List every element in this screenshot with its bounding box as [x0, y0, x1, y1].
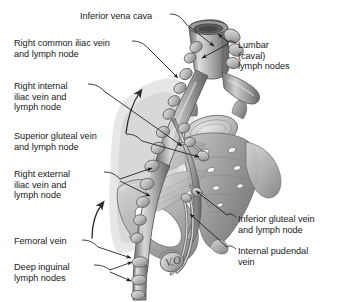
label-inferior-gluteal-vein-and-lymph-node: Inferior gluteal vein and lymph node: [238, 214, 315, 235]
label-right-external-iliac-vein-and-lymph-node: Right external iliac vein and lymph node: [14, 169, 70, 201]
anatomy-figure: Inferior vena cava Right common iliac ve…: [0, 0, 340, 302]
label-right-internal-iliac-vein-and-lymph-node: Right internal iliac vein and lymph node: [14, 81, 67, 113]
label-superior-gluteal-vein-and-lymph-node: Superior gluteal vein and lymph node: [14, 131, 97, 152]
label-internal-pudendal-vein: Internal pudendal vein: [238, 246, 308, 267]
label-right-common-iliac-vein-and-lymph-node: Right common iliac vein and lymph node: [14, 38, 110, 59]
label-femoral-vein: Femoral vein: [14, 236, 67, 247]
label-lumbar-caval-lymph-nodes: Lumbar (caval) lymph nodes: [238, 40, 290, 72]
label-deep-inguinal-lymph-nodes: Deep inguinal lymph nodes: [14, 262, 70, 283]
label-inferior-vena-cava: Inferior vena cava: [80, 11, 152, 22]
